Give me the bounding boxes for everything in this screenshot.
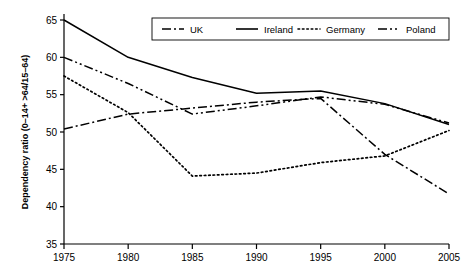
- x-tick-label-1980: 1980: [117, 252, 140, 263]
- y-tick-label-65: 65: [46, 15, 58, 26]
- series-line-germany: [64, 76, 449, 176]
- y-tick-label-60: 60: [46, 52, 58, 63]
- legend-label-poland: Poland: [406, 24, 436, 35]
- x-tick-label-1990: 1990: [245, 252, 268, 263]
- dependency-ratio-line-chart: 3540455055606519751980198519901995200020…: [0, 0, 471, 272]
- legend-label-germany: Germany: [326, 24, 365, 35]
- legend-label-ireland: Ireland: [264, 24, 293, 35]
- series-line-uk: [64, 98, 449, 194]
- y-tick-label-55: 55: [46, 89, 58, 100]
- x-tick-label-2000: 2000: [374, 252, 397, 263]
- y-tick-label-50: 50: [46, 127, 58, 138]
- series-line-poland: [64, 57, 449, 123]
- x-tick-label-1985: 1985: [181, 252, 204, 263]
- y-axis-title: Dependency ratio (0–14+ >64/15–64): [20, 55, 30, 210]
- x-tick-label-1995: 1995: [310, 252, 333, 263]
- y-tick-label-45: 45: [46, 164, 58, 175]
- y-tick-label-40: 40: [46, 201, 58, 212]
- x-tick-label-2005: 2005: [438, 252, 461, 263]
- chart-container: 3540455055606519751980198519901995200020…: [0, 0, 471, 272]
- legend-label-uk: UK: [190, 24, 204, 35]
- y-tick-label-35: 35: [46, 239, 58, 250]
- x-tick-label-1975: 1975: [53, 252, 76, 263]
